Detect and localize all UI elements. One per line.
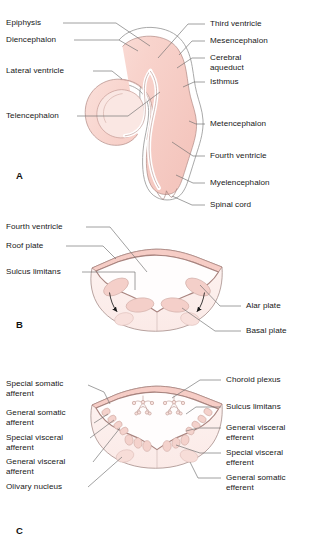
- label-c-general-visceral-afferent: General visceral afferent: [6, 457, 65, 476]
- label-b-sulcus-limitans: Sulcus limitans: [6, 267, 61, 277]
- panel-letter-a: A: [16, 170, 23, 181]
- label-c-sulcus-limitans: Sulcus limitans: [226, 402, 281, 412]
- label-b-basal-plate: Basal plate: [246, 326, 287, 336]
- label-c-special-visceral-afferent: Special visceral afferent: [6, 433, 63, 452]
- anatomy-figure: Epiphysis Diencephalon Lateral ventricle…: [0, 0, 315, 544]
- label-c-special-somatic-afferent: Special somatic afferent: [6, 379, 63, 398]
- label-b-roof-plate: Roof plate: [6, 241, 43, 251]
- label-third-ventricle: Third ventricle: [210, 19, 262, 29]
- label-diencephalon: Diencephalon: [6, 35, 56, 45]
- panel-letter-c: C: [16, 525, 23, 536]
- label-c-special-visceral-efferent: Special visceral efferent: [226, 448, 283, 467]
- label-c-choroid-plexus: Choroid plexus: [226, 375, 281, 385]
- label-c-olivary-nucleus: Olivary nucleus: [6, 482, 62, 492]
- label-b-fourth-ventricle: Fourth ventricle: [6, 222, 63, 232]
- panel-b-artwork: [66, 227, 241, 331]
- label-b-alar-plate: Alar plate: [246, 301, 281, 311]
- label-lateral-ventricle: Lateral ventricle: [6, 66, 64, 76]
- panel-letter-b: B: [16, 319, 23, 330]
- label-c-general-somatic-afferent: General somatic afferent: [6, 408, 66, 427]
- label-spinal-cord: Spinal cord: [210, 200, 251, 210]
- panel-c-artwork: [88, 380, 222, 487]
- label-epiphysis: Epiphysis: [6, 18, 41, 28]
- label-mesencephalon: Mesencephalon: [210, 36, 268, 46]
- label-c-general-visceral-efferent: General visceral efferent: [226, 423, 285, 442]
- label-fourth-ventricle: Fourth ventricle: [210, 151, 267, 161]
- label-isthmus: Isthmus: [210, 77, 239, 87]
- label-cerebral-aqueduct: Cerebral aqueduct: [210, 53, 244, 72]
- label-myelencephalon: Myelencephalon: [210, 178, 270, 188]
- label-telencephalon: Telencephalon: [6, 111, 59, 121]
- label-c-general-somatic-efferent: General somatic efferent: [226, 473, 286, 492]
- panel-a-artwork: [63, 23, 205, 205]
- label-metencephalon: Metencephalon: [210, 119, 266, 129]
